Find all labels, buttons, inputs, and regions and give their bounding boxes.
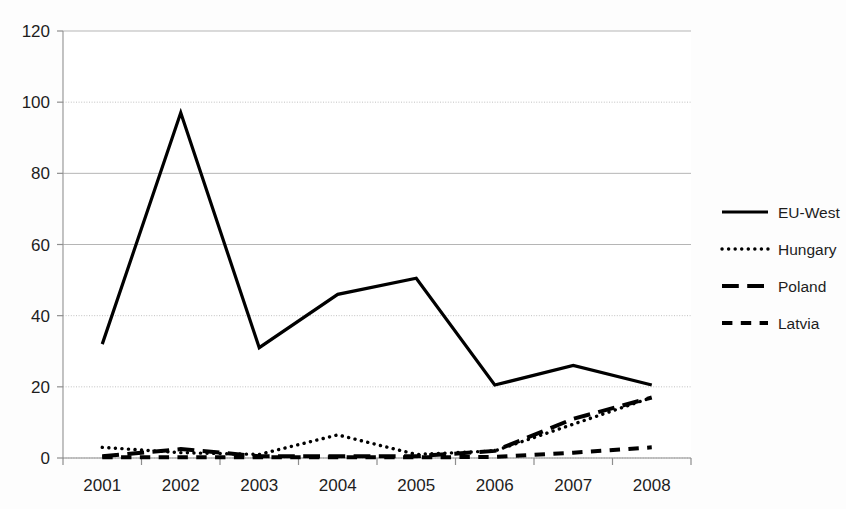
x-tick-label: 2008: [633, 476, 671, 495]
y-tick-label: 40: [31, 307, 50, 326]
legend-label-latvia: Latvia: [778, 315, 820, 332]
y-tick-label: 80: [31, 164, 50, 183]
x-tick-label: 2004: [319, 476, 357, 495]
x-tick-label: 2002: [162, 476, 200, 495]
x-axis-tick-labels: 20012002200320042005200620072008: [83, 476, 670, 495]
legend-label-poland: Poland: [778, 278, 826, 295]
y-tick-label: 120: [22, 22, 50, 41]
x-tick-label: 2001: [83, 476, 121, 495]
x-tick-label: 2005: [397, 476, 435, 495]
y-tick-label: 60: [31, 236, 50, 255]
x-tick-label: 2007: [554, 476, 592, 495]
legend-label-eu-west: EU-West: [778, 204, 840, 221]
y-axis-ticks: [57, 31, 63, 458]
chart-figure: 020406080100120 200120022003200420052006…: [0, 0, 846, 509]
x-tick-label: 2003: [240, 476, 278, 495]
y-tick-label: 0: [41, 449, 50, 468]
chart-legend: EU-WestHungaryPolandLatvia: [722, 204, 840, 332]
legend-label-hungary: Hungary: [778, 241, 837, 258]
x-axis-ticks: [63, 458, 691, 465]
x-tick-label: 2006: [476, 476, 514, 495]
line-chart: 020406080100120 200120022003200420052006…: [0, 0, 846, 509]
y-tick-label: 100: [22, 93, 50, 112]
y-axis-tick-labels: 020406080100120: [22, 22, 50, 468]
y-tick-label: 20: [31, 378, 50, 397]
